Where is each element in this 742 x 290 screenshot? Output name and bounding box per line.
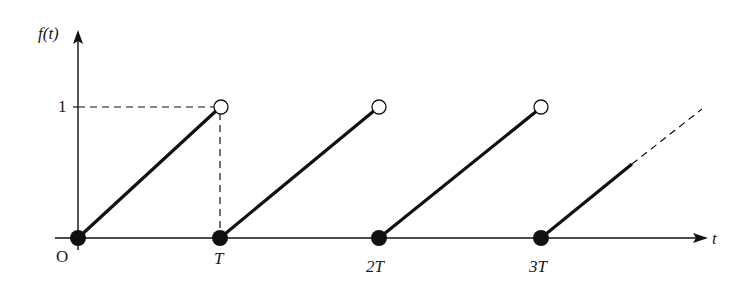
- filled-dot-2T: [371, 230, 387, 246]
- open-dot-T: [214, 100, 228, 114]
- x-tick-label-3T: 3T: [529, 258, 547, 275]
- ramp-2: [379, 110, 538, 238]
- filled-dot-3T: [533, 230, 549, 246]
- x-tick-label-2T: 2T: [366, 258, 384, 275]
- ramp-3: [541, 164, 632, 238]
- x-axis-label: t: [712, 230, 717, 247]
- open-dot-3T: [534, 100, 548, 114]
- ramp-1: [220, 110, 375, 238]
- ramp-0: [78, 110, 217, 238]
- x-tick-label-T: T: [214, 250, 223, 267]
- ramp-3-continuation: [632, 109, 702, 164]
- sawtooth-diagram: [0, 0, 742, 290]
- filled-dot-0: [70, 230, 86, 246]
- origin-label: O: [56, 248, 68, 265]
- y-tick-label: 1: [58, 98, 67, 115]
- open-dot-2T: [372, 100, 386, 114]
- y-axis-label: f(t): [38, 25, 59, 42]
- filled-dot-T: [212, 230, 228, 246]
